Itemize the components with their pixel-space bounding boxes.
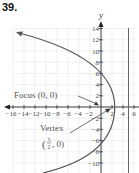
focus-label: Focus (0, 0) bbox=[14, 90, 57, 100]
vertex-coordinates: ( 5 2 , 0) bbox=[42, 137, 64, 152]
y-tick: −6 bbox=[92, 137, 100, 145]
x-tick: −10 bbox=[40, 110, 51, 118]
y-axis-label: y bbox=[98, 10, 103, 20]
y-axis-arrow-icon bbox=[99, 21, 104, 27]
x-axis-arrow-icon bbox=[4, 105, 10, 110]
x-axis: −16 −14 −12 −10 −8 −6 −4 −2 2 4 6 bbox=[4, 105, 139, 119]
y-tick: −10 bbox=[88, 160, 99, 168]
x-tick: −4 bbox=[74, 110, 82, 118]
y-tick: 4 bbox=[96, 81, 100, 89]
y-tick: 8 bbox=[96, 59, 100, 67]
svg-text:2: 2 bbox=[48, 144, 51, 150]
x-tick: 6 bbox=[132, 110, 136, 118]
y-tick: −4 bbox=[92, 126, 100, 134]
svg-text:(: ( bbox=[42, 138, 46, 151]
x-tick: −16 bbox=[6, 110, 17, 118]
parabola-graph: −16 −14 −12 −10 −8 −6 −4 −2 2 4 6 y bbox=[0, 0, 139, 173]
y-tick: 2 bbox=[96, 92, 100, 100]
grid bbox=[13, 28, 137, 173]
x-tick: −8 bbox=[52, 110, 60, 118]
y-tick: 12 bbox=[92, 36, 100, 44]
x-tick: −12 bbox=[29, 110, 40, 118]
vertex-label: Vertex bbox=[40, 123, 64, 133]
y-tick: 10 bbox=[92, 48, 100, 56]
svg-text:, 0): , 0) bbox=[52, 139, 64, 149]
focus-arrow-icon bbox=[94, 102, 99, 106]
y-tick: 14 bbox=[92, 25, 100, 33]
svg-text:5: 5 bbox=[48, 137, 51, 143]
x-tick: −6 bbox=[63, 110, 71, 118]
x-tick: −14 bbox=[18, 110, 29, 118]
x-tick: 4 bbox=[121, 110, 125, 118]
curve-arrow-icon bbox=[16, 32, 23, 37]
